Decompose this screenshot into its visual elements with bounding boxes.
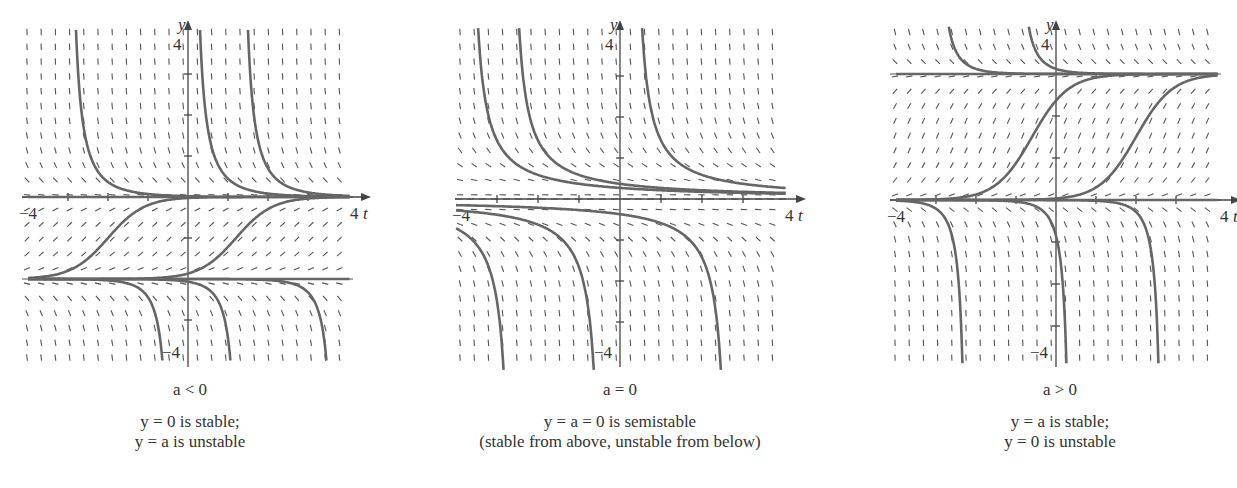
tick-label-ymax: 4: [605, 35, 614, 54]
panel-a-negative: −44t4y−4 a < 0 y = 0 is stable; y = a is…: [0, 0, 400, 488]
t-axis-label: t: [363, 204, 369, 223]
solution-curves: [28, 30, 350, 361]
t-axis-label: t: [1233, 207, 1237, 226]
tick-label-ymax: 4: [1041, 35, 1050, 54]
caption-line-2: y = 0 is unstable: [940, 432, 1180, 452]
t-axis-arrow-icon: [796, 195, 806, 203]
tick-label-tmin: −4: [887, 207, 906, 226]
condition-label: a > 0: [940, 380, 1180, 400]
solution-curves: [896, 27, 1218, 363]
tick-label-tmax: 4: [1220, 207, 1229, 226]
t-axis-arrow-icon: [361, 193, 371, 201]
condition-label: a = 0: [430, 380, 810, 400]
slope-field-plot-a-zero: −44t4y−4: [430, 0, 830, 370]
t-axis-arrow-icon: [1231, 196, 1237, 204]
caption-line-1: y = a = 0 is semistable: [430, 412, 810, 432]
slope-field-plot-a-positive: −44t4y−4: [870, 0, 1237, 370]
panel-a-positive: −44t4y−4 a > 0 y = a is stable; y = 0 is…: [870, 0, 1237, 488]
caption-line-1: y = a is stable;: [940, 412, 1180, 432]
tick-label-ymin: −4: [594, 343, 613, 362]
condition-label: a < 0: [80, 380, 300, 400]
slope-field: [892, 29, 1211, 361]
tick-label-ymin: −4: [1030, 343, 1049, 362]
tick-label-ymax: 4: [173, 35, 182, 54]
y-axis-label: y: [1044, 15, 1054, 34]
slope-field: [457, 29, 776, 361]
tick-label-tmin: −4: [452, 206, 471, 225]
slope-field-plot-a-negative: −44t4y−4: [0, 0, 400, 370]
tick-label-ymin: −4: [162, 343, 181, 362]
tick-label-tmin: −4: [19, 204, 38, 223]
panel-a-zero: −44t4y−4 a = 0 y = a = 0 is semistable (…: [430, 0, 830, 488]
caption-a-positive: a > 0 y = a is stable; y = 0 is unstable: [940, 380, 1180, 452]
tick-label-tmax: 4: [785, 206, 794, 225]
caption-a-zero: a = 0 y = a = 0 is semistable (stable fr…: [430, 380, 810, 452]
caption-a-negative: a < 0 y = 0 is stable; y = a is unstable: [80, 380, 300, 452]
caption-line-2: (stable from above, unstable from below): [430, 432, 810, 452]
caption-line-2: y = a is unstable: [80, 432, 300, 452]
y-axis-label: y: [608, 15, 618, 34]
y-axis-label: y: [176, 15, 186, 34]
tick-label-tmax: 4: [350, 204, 359, 223]
caption-line-1: y = 0 is stable;: [80, 412, 300, 432]
t-axis-label: t: [798, 206, 804, 225]
